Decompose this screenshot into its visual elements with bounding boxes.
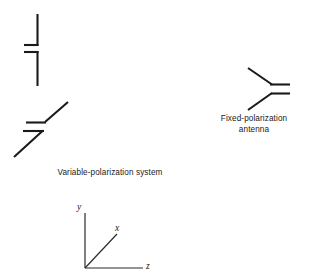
x-axis-line: [85, 234, 117, 268]
y-axis-label: y: [77, 203, 81, 213]
diagram-canvas: [0, 0, 318, 280]
fixed-antenna-caption-line2: antenna: [239, 125, 269, 134]
z-axis-label: z: [146, 262, 150, 272]
fixed-polarization-antenna-icon: [248, 68, 290, 110]
slanted-dipole-icon: [14, 102, 68, 157]
slanted-dipole-upper-stem: [45, 102, 68, 122]
fixed-antenna-caption-line1: Fixed-polarization: [221, 114, 287, 123]
antenna-polarization-diagram: Fixed-polarization antenna Variable-pola…: [0, 0, 318, 280]
fixed-antenna-lower-flare: [248, 93, 272, 110]
vertical-dipole-icon: [24, 14, 39, 86]
variable-polarization-system-caption: Variable-polarization system: [10, 168, 210, 179]
fixed-polarization-antenna-caption: Fixed-polarization antenna: [196, 114, 312, 136]
x-axis-label: x: [115, 224, 119, 234]
slanted-dipole-lower-stem: [14, 131, 43, 158]
fixed-antenna-upper-flare: [248, 68, 272, 85]
coordinate-axes-icon: [85, 213, 143, 268]
